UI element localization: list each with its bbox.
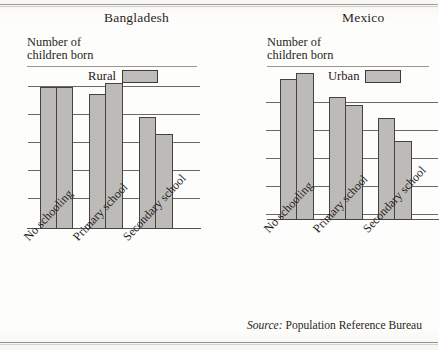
page-bottom-rule xyxy=(0,342,438,343)
legend-label-rural: Rural xyxy=(88,69,116,84)
page-top-rule xyxy=(0,4,438,5)
chart-title-bangladesh: Bangladesh xyxy=(104,10,169,26)
source-prefix: Source: xyxy=(247,319,283,332)
page-bottom-rule-shadow xyxy=(0,344,438,345)
chart-title-mexico: Mexico xyxy=(342,10,384,26)
y-axis-label-underline xyxy=(27,66,197,67)
source-text: Population Reference Bureau xyxy=(286,319,423,332)
y-axis-label-line2: children born xyxy=(27,48,93,62)
legend-swatch-icon xyxy=(122,70,158,83)
y-axis-label-mexico: Number of children born xyxy=(267,36,333,63)
source-note: Source: Population Reference Bureau xyxy=(247,319,422,332)
y-axis-label-line2: children born xyxy=(267,48,333,62)
page-top-rule-shadow xyxy=(0,6,438,7)
y-axis-label-underline xyxy=(267,66,429,67)
y-axis-label-bangladesh: Number of children born xyxy=(27,36,93,63)
y-axis-label-line1: Number of xyxy=(27,35,81,49)
legend-bangladesh: Rural xyxy=(88,69,158,84)
y-axis-label-line1: Number of xyxy=(267,35,321,49)
